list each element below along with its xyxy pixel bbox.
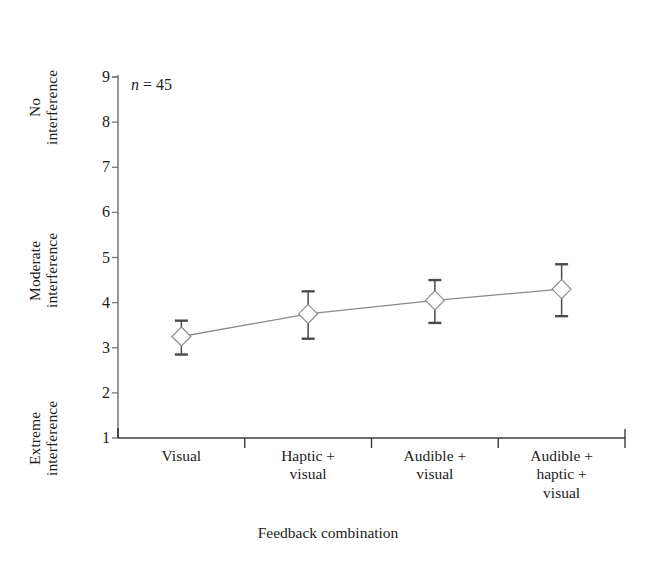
data-point-marker-3[interactable] (552, 280, 571, 299)
x-category-label-2: Audible + visual (372, 447, 499, 484)
series-line-0 (181, 289, 561, 336)
x-category-label-1: Haptic + visual (245, 447, 372, 484)
figure-interference-chart: No interference Moderate interference Ex… (0, 0, 656, 564)
x-category-label-0: Visual (118, 447, 245, 465)
data-point-marker-1[interactable] (299, 304, 318, 323)
data-point-marker-0[interactable] (172, 327, 191, 346)
data-point-marker-2[interactable] (425, 291, 444, 310)
x-category-label-3: Audible + haptic + visual (498, 447, 625, 502)
x-axis-title: Feedback combination (0, 524, 656, 542)
